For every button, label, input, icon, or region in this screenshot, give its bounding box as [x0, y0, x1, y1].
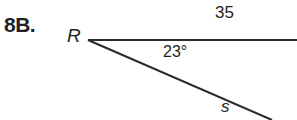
vertex-label: R [67, 26, 81, 45]
diagonal-side-label: s [221, 98, 230, 115]
top-side-length-label: 35 [215, 4, 234, 21]
triangle-figure [0, 0, 297, 120]
angle-label: 23° [163, 44, 187, 60]
